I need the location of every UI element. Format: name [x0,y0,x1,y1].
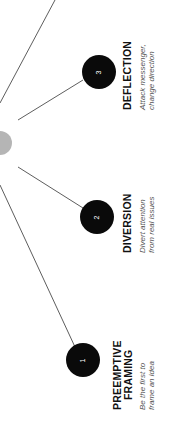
connector-1 [0,185,75,347]
step-3-desc-line1: Attack messenger, [138,41,147,110]
step-1-desc-line2: frame an idea [147,340,156,410]
step-1-badge: 1 [66,343,100,377]
step-2-title: DIVERSION [122,193,133,253]
step-1-label: PREEMPTIVE FRAMING Be the first to frame… [112,340,156,410]
step-3-desc-line2: change direction [147,41,156,110]
step-1-desc-line1: Be the first to [138,340,147,410]
step-3-label: DEFLECTION Attack messenger, change dire… [122,41,156,110]
connector-3 [18,80,83,120]
step-2-desc-line1: Divert attention [138,193,147,253]
step-2-label: DIVERSION Divert attention from real iss… [122,193,156,253]
step-1-title-line2: FRAMING [123,340,134,410]
step-3-badge: 3 [82,55,116,89]
connector-2 [18,167,83,208]
step-3-title: DEFLECTION [122,41,133,110]
connector-top [0,0,55,103]
step-2-desc-line2: from real issues [147,193,156,253]
hub-circle [0,131,12,155]
step-2-badge: 2 [80,200,114,234]
